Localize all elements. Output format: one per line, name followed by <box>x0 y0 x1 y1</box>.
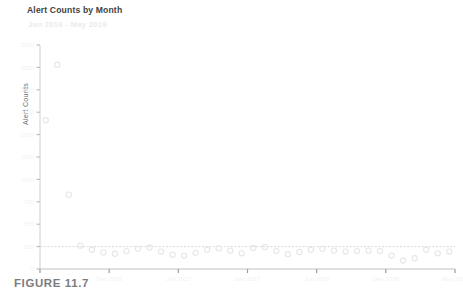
chart-subtitle: Jun 2016 - May 2019 <box>28 20 107 29</box>
data-point <box>181 253 186 258</box>
data-point <box>285 252 290 257</box>
data-point <box>66 192 71 197</box>
data-point <box>228 248 233 253</box>
data-point <box>297 249 302 254</box>
x-tick-label: Jun 2018 <box>304 276 329 282</box>
data-point <box>205 247 210 252</box>
data-point <box>112 251 117 256</box>
figure-caption: FIGURE 11.7 <box>14 277 89 289</box>
data-point <box>55 62 60 67</box>
data-point <box>251 245 256 250</box>
plot-area: Alert Counts 025050075010001250150017502… <box>40 45 455 269</box>
x-tick-label: Dec 2018 <box>373 276 399 282</box>
y-tick-label: 250 <box>24 244 35 250</box>
data-point <box>343 249 348 254</box>
y-tick-label: 1250 <box>21 154 35 160</box>
data-point <box>354 248 359 253</box>
data-point <box>366 248 371 253</box>
data-point <box>377 248 382 253</box>
figure-container: Alert Counts by Month Jun 2016 - May 201… <box>0 0 463 297</box>
y-tick-label: 1000 <box>21 177 35 183</box>
y-tick-label: 500 <box>24 221 35 227</box>
data-point <box>78 243 83 248</box>
y-tick-label: 1500 <box>21 132 35 138</box>
x-tick-label: May 2019 <box>442 276 463 282</box>
y-tick-label: 1750 <box>21 109 35 115</box>
x-tick-label: Dec 2017 <box>235 276 261 282</box>
data-point <box>331 248 336 253</box>
data-point <box>412 256 417 261</box>
data-point <box>193 250 198 255</box>
data-points <box>43 62 452 263</box>
data-point <box>389 253 394 258</box>
data-point <box>424 247 429 252</box>
data-point <box>147 245 152 250</box>
y-tick-label: 2500 <box>21 42 35 48</box>
x-tick-label: Jun 2017 <box>166 276 191 282</box>
data-point <box>101 250 106 255</box>
data-point <box>216 246 221 251</box>
chart-title: Alert Counts by Month <box>27 5 122 15</box>
x-axis-ticks: Jun 2016Dec 2016Jun 2017Dec 2017Jun 2018… <box>28 269 463 282</box>
data-point <box>43 118 48 123</box>
y-tick-label: 2000 <box>21 87 35 93</box>
data-point <box>239 251 244 256</box>
data-point <box>89 247 94 252</box>
y-tick-label: 0 <box>31 266 35 272</box>
data-point <box>308 247 313 252</box>
data-point <box>170 252 175 257</box>
data-point <box>447 249 452 254</box>
y-tick-label: 750 <box>24 199 35 205</box>
data-point <box>274 248 279 253</box>
data-point <box>401 258 406 263</box>
y-tick-label: 2250 <box>21 65 35 71</box>
data-point <box>158 249 163 254</box>
data-point <box>435 251 440 256</box>
data-point <box>124 248 129 253</box>
x-tick-label: Dec 2016 <box>96 276 122 282</box>
scatter-plot: 02505007501000125015001750200022502500 J… <box>40 45 455 269</box>
